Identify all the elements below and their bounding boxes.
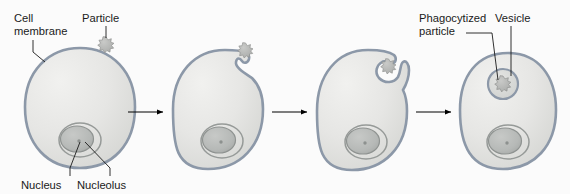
label-phagocytized-line1: Phagocytized xyxy=(419,12,486,24)
label-nucleolus: Nucleolus xyxy=(77,179,127,191)
nucleolus-stage-2 xyxy=(219,140,222,143)
vesicle-stage-4 xyxy=(488,69,518,99)
particle-stage-2 xyxy=(238,43,253,58)
label-cell-membrane-line2: membrane xyxy=(14,25,67,37)
phagocytosis-diagram: Cell membrane Particle Nucleus Nucleolus xyxy=(0,0,570,194)
nucleolus-stage-4 xyxy=(505,141,508,144)
stage-1-cell-with-free-particle xyxy=(25,37,135,168)
particle-stage-1 xyxy=(98,37,114,53)
label-vesicle: Vesicle xyxy=(495,12,530,24)
nucleolus-stage-3 xyxy=(363,141,366,144)
label-phagocytized-line2: particle xyxy=(419,25,455,37)
stage-2-membrane-indenting xyxy=(173,43,263,169)
diagram-canvas: Cell membrane Particle Nucleus Nucleolus xyxy=(0,0,570,194)
stage-3-membrane-engulfing xyxy=(317,50,409,170)
label-particle: Particle xyxy=(82,12,119,24)
leader-cell-membrane xyxy=(33,40,45,62)
label-cell-membrane-line1: Cell xyxy=(14,12,33,24)
stage-4-vesicle-formed xyxy=(460,53,556,169)
label-nucleus: Nucleus xyxy=(21,179,62,191)
